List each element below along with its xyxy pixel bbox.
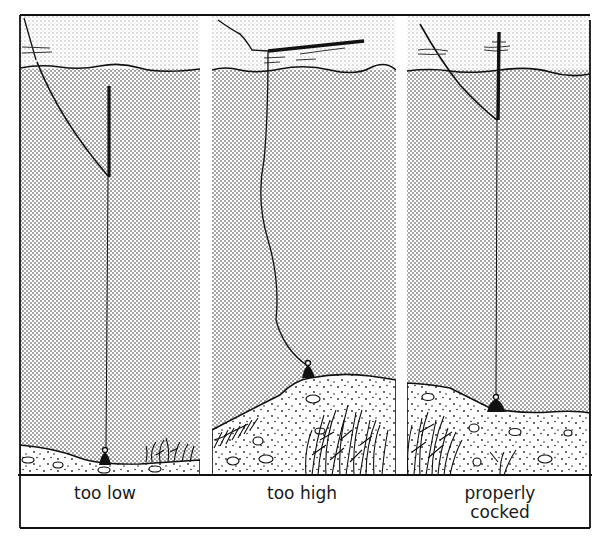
panel-too-low xyxy=(20,15,200,475)
panel-label-properly-cocked: properly cocked xyxy=(420,484,580,522)
panel-label-too-high: too high xyxy=(222,484,382,503)
sinker-ring-icon xyxy=(494,395,499,400)
panel-label-too-low: too low xyxy=(30,484,180,503)
sinker-ring-icon xyxy=(306,361,311,366)
panel-label-line-2: cocked xyxy=(420,503,580,522)
sinker-ring-icon xyxy=(103,448,108,453)
surface-band xyxy=(20,15,200,69)
float-icon xyxy=(498,32,499,120)
panel-label-line-1: properly xyxy=(420,484,580,503)
panel-too-high xyxy=(212,15,396,475)
panel-properly-cocked xyxy=(407,15,590,475)
float-depth-diagram xyxy=(0,0,608,550)
surface-band xyxy=(212,15,396,70)
